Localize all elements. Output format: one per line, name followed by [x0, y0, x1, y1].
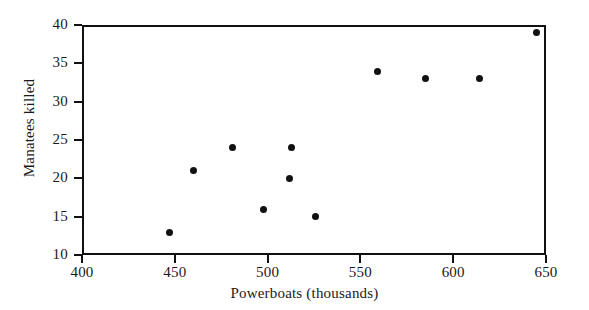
y-axis-tick-label: 15: [40, 209, 68, 224]
x-axis-tick: [267, 255, 269, 263]
scatter-chart-figure: Manatees killed 10152025303540 400450500…: [0, 0, 589, 310]
y-axis-tick-label: 30: [40, 94, 68, 109]
plot-area: [82, 25, 546, 255]
x-axis-tick-label: 400: [52, 264, 112, 280]
x-axis-tick: [81, 255, 83, 263]
x-axis-tick: [452, 255, 454, 263]
x-axis-tick: [174, 255, 176, 263]
y-axis-title: Manatees killed: [21, 78, 38, 176]
y-axis-tick: [74, 177, 82, 179]
y-axis-tick-label: 20: [40, 170, 68, 185]
x-axis-tick-label: 550: [330, 264, 390, 280]
y-axis-tick: [74, 62, 82, 64]
x-axis-tick: [359, 255, 361, 263]
x-axis-tick-label: 500: [238, 264, 298, 280]
y-axis-title-container: Manatees killed: [18, 0, 40, 255]
x-axis-title-text: Powerboats (thousands): [210, 285, 378, 302]
y-axis-tick: [74, 24, 82, 26]
x-axis-tick-label: 450: [145, 264, 205, 280]
x-axis-tick-label: 650: [516, 264, 576, 280]
x-axis-tick-label: 600: [423, 264, 483, 280]
y-axis-tick: [74, 216, 82, 218]
y-axis-tick-label: 35: [40, 55, 68, 70]
y-axis-tick: [74, 101, 82, 103]
x-axis-title: Powerboats (thousands): [0, 285, 589, 302]
x-axis-tick: [545, 255, 547, 263]
y-axis-tick-label: 25: [40, 132, 68, 147]
y-axis-tick-label: 40: [40, 17, 68, 32]
y-axis-tick: [74, 139, 82, 141]
y-axis-tick-label: 10: [40, 247, 68, 262]
